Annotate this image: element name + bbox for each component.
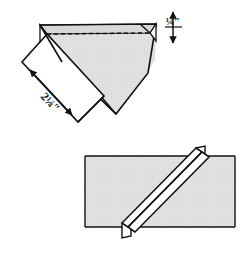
figure-root: 2¼″ ¼″ xyxy=(0,0,249,258)
technical-illustration: 2¼″ ¼″ xyxy=(0,0,249,258)
dimension-seam-allowance: ¼″ xyxy=(165,12,182,43)
stitch-line xyxy=(47,33,150,34)
dimension-label-0-25: ¼″ xyxy=(166,15,180,27)
upper-figure: 2¼″ ¼″ xyxy=(22,12,182,122)
lower-figure xyxy=(85,146,235,238)
